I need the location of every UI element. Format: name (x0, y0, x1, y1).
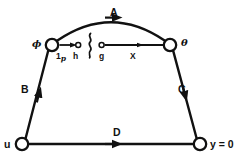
edge-label-D: D (113, 127, 121, 138)
node-label-u: u (4, 139, 10, 150)
node-label-theta: θ (181, 38, 188, 48)
inner-arrow-left-label: 1p (56, 52, 66, 63)
edge-label-C: C (178, 84, 186, 95)
diagram-canvas: A B C D ϕ θ u y = 0 1p h g X (0, 0, 236, 161)
inner-arrow-left (60, 43, 81, 48)
node-u (16, 138, 28, 150)
node-y-zero (194, 138, 206, 150)
node-label-y-zero: y = 0 (210, 139, 234, 150)
edge-A (57, 18, 164, 41)
node-theta (164, 39, 176, 51)
node-label-h: h (73, 52, 78, 61)
inner-arrow-right (99, 43, 163, 48)
inner-arrow-left-label-subscript: p (61, 54, 66, 63)
edge-label-A: A (110, 7, 118, 18)
node-h-dot (76, 43, 81, 48)
node-g-dot (99, 43, 104, 48)
edge-label-B: B (21, 84, 29, 95)
wavy-line-separator (89, 33, 91, 57)
node-phi (46, 39, 58, 51)
node-label-phi: ϕ (32, 39, 41, 49)
inner-arrow-right-label: X (130, 52, 136, 61)
node-label-g: g (99, 52, 104, 61)
